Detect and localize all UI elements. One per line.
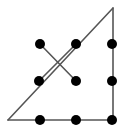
dot-middle-right	[107, 76, 117, 86]
dot-middle-center	[71, 76, 81, 86]
figure-svg	[0, 0, 131, 130]
dot-bottom-right	[107, 115, 117, 125]
dot-top-right	[107, 39, 117, 49]
dot-top-middle	[71, 39, 81, 49]
dot-bottom-left	[35, 115, 45, 125]
dot-top-left	[35, 39, 45, 49]
dot-bottom-middle	[71, 115, 81, 125]
geometric-figure-canvas	[0, 0, 131, 130]
dot-middle-left	[34, 76, 44, 86]
cross-segments-group	[39, 44, 76, 81]
vertex-dots-group	[34, 39, 117, 125]
